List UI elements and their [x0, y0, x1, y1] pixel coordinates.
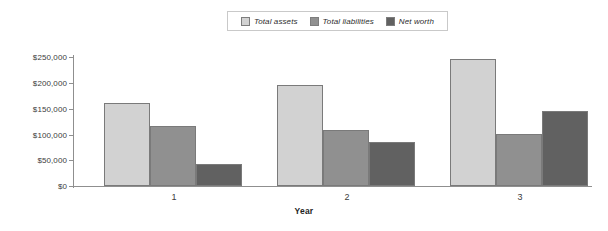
bar-total-assets — [450, 59, 496, 186]
legend-swatch-total-liabilities — [310, 17, 319, 26]
y-tick-label: $0 — [58, 182, 67, 191]
bar-total-liabilities — [323, 130, 369, 186]
bar-group-year-3 — [450, 57, 588, 186]
plot-area — [73, 57, 592, 186]
bar-total-assets — [104, 103, 150, 186]
y-axis-labels: $250,000 $200,000 $150,000 $100,000 $50,… — [0, 0, 67, 231]
x-tick-label-3: 3 — [500, 192, 540, 202]
y-tick-label: $150,000 — [33, 105, 67, 114]
legend-entry-net-worth: Net worth — [386, 17, 434, 26]
legend-entry-total-assets: Total assets — [241, 17, 298, 26]
bar-net-worth — [542, 111, 588, 186]
y-tick-label: $250,000 — [33, 53, 67, 62]
x-tick-label-2: 2 — [327, 192, 367, 202]
legend-label-total-assets: Total assets — [254, 17, 298, 26]
legend-label-net-worth: Net worth — [399, 17, 434, 26]
bar-total-liabilities — [496, 134, 542, 186]
bar-total-assets — [277, 85, 323, 186]
bar-group-year-1 — [104, 57, 242, 186]
chart-legend: Total assets Total liabilities Net worth — [227, 11, 448, 31]
x-tick-label-1: 1 — [154, 192, 194, 202]
legend-swatch-total-assets — [241, 17, 250, 26]
legend-entry-total-liabilities: Total liabilities — [310, 17, 374, 26]
y-tick-label: $50,000 — [37, 156, 67, 165]
x-axis-title: Year — [0, 206, 608, 216]
x-axis-line — [73, 186, 592, 187]
bar-chart: Total assets Total liabilities Net worth… — [0, 0, 608, 231]
legend-label-total-liabilities: Total liabilities — [323, 17, 374, 26]
y-tick-label: $100,000 — [33, 131, 67, 140]
legend-swatch-net-worth — [386, 17, 395, 26]
y-tick-label: $200,000 — [33, 79, 67, 88]
bar-net-worth — [196, 164, 242, 186]
bar-total-liabilities — [150, 126, 196, 186]
bar-net-worth — [369, 142, 415, 186]
bar-group-year-2 — [277, 57, 415, 186]
